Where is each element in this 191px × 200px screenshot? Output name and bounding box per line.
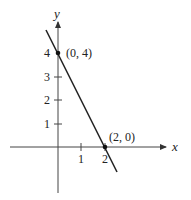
point-label-0-4: (0, 4) [66,46,92,60]
y-tick-label-3: 3 [44,70,50,84]
graph: 1 2 1 2 3 4 x y (0, 4) (2, 0) [0,0,191,200]
y-tick-label-2: 2 [44,93,50,107]
point-label-2-0: (2, 0) [109,130,135,144]
y-tick-label-4: 4 [44,46,50,60]
point-2-0 [103,145,108,150]
y-tick-label-1: 1 [44,117,50,131]
point-0-4 [56,51,61,56]
y-axis-label: y [52,6,60,21]
x-tick-label-1: 1 [78,152,84,166]
x-tick-label-2: 2 [102,152,108,166]
x-axis-label: x [171,139,178,154]
